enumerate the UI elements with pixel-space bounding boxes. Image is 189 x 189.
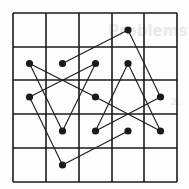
vertex-dot xyxy=(26,60,33,67)
vertex-dot xyxy=(124,127,131,134)
vertex-dot xyxy=(59,161,66,168)
vertex-dot xyxy=(26,93,33,100)
vertex-dot xyxy=(157,93,164,100)
vertex-dot xyxy=(157,127,164,134)
vertex-dot xyxy=(59,127,66,134)
vertex-dot xyxy=(92,93,99,100)
vertex-dot xyxy=(124,60,131,67)
vertex-dot xyxy=(59,60,66,67)
vertex-dot xyxy=(124,26,131,33)
grid-path-diagram xyxy=(0,0,189,189)
vertex-dot xyxy=(92,60,99,67)
vertex-dot xyxy=(92,127,99,134)
